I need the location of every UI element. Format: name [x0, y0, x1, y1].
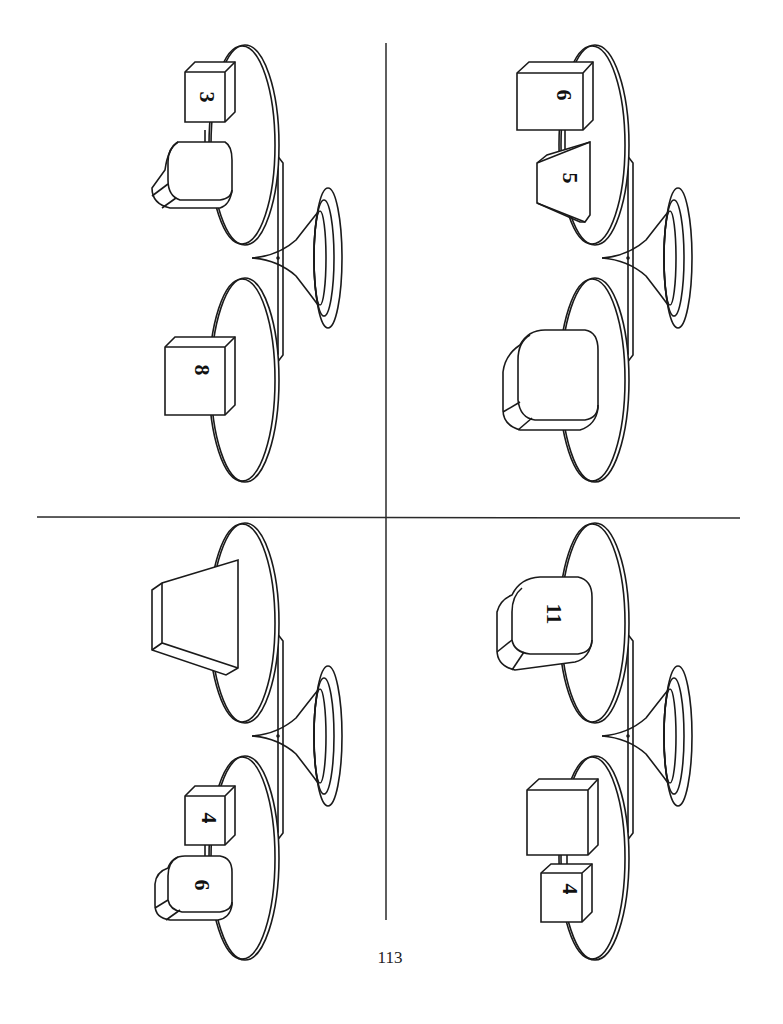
block-label: 8 — [190, 365, 215, 376]
puzzle-page: 3 8 6 5 — [0, 0, 783, 1024]
puzzle-top-right: 6 5 — [503, 45, 692, 482]
trapezoid-block: 5 — [537, 142, 590, 222]
rounded-block: 6 — [155, 856, 232, 920]
block-label: 6 — [552, 90, 577, 101]
block-label: 11 — [542, 604, 567, 625]
block-label: 3 — [195, 92, 220, 103]
cube-block: 4 — [541, 864, 592, 922]
puzzle-bottom-left: 4 6 — [152, 523, 342, 960]
cube-block — [527, 779, 598, 864]
rounded-block — [503, 330, 598, 430]
block-label: 5 — [558, 173, 583, 184]
cube-block: 8 — [165, 337, 235, 415]
trapezoid-block — [152, 560, 238, 675]
puzzle-bottom-right: 11 4 — [497, 523, 692, 960]
page-number: 113 — [360, 948, 420, 968]
rounded-block — [152, 142, 232, 208]
block-label: 4 — [558, 884, 583, 895]
rounded-block: 11 — [497, 577, 592, 670]
block-label: 6 — [190, 880, 215, 891]
horizontal-divider — [37, 517, 740, 518]
block-label: 4 — [197, 813, 222, 824]
puzzle-top-left: 3 8 — [152, 45, 342, 482]
